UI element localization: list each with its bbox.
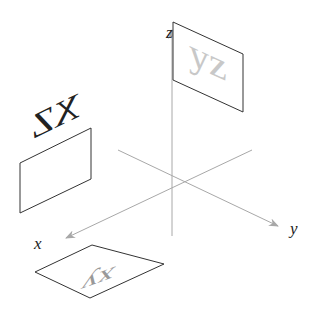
x-axis-label: x: [33, 234, 42, 253]
y-axis-label: y: [288, 219, 298, 238]
xy-plane: xy: [35, 245, 164, 300]
axes-diagram: yz XZ xy x y z: [0, 0, 327, 317]
y-axis: [118, 150, 278, 226]
yz-plane: yz: [173, 22, 243, 112]
x-axis: [66, 150, 252, 238]
z-axis-label: z: [165, 23, 173, 42]
xz-plane: XZ: [20, 84, 91, 213]
